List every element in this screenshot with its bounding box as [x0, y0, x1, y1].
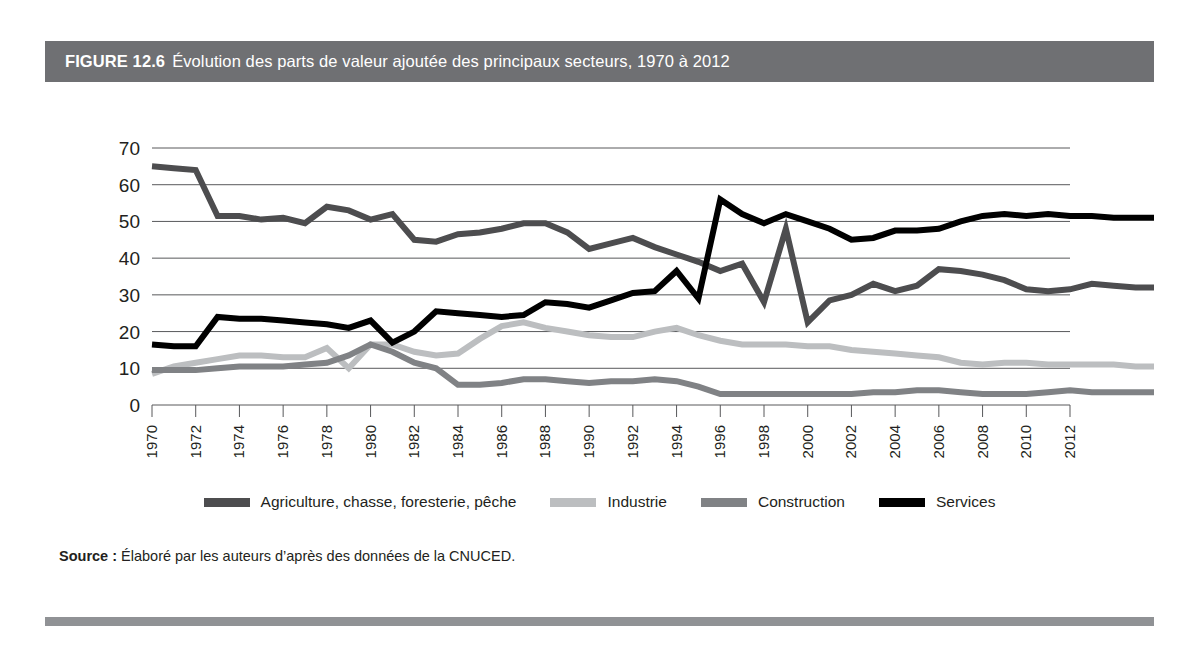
figure-container: FIGURE 12.6Évolution des parts de valeur…	[0, 0, 1195, 654]
y-axis-tick-label: 30	[119, 285, 140, 306]
data-series-lines	[152, 166, 1154, 394]
legend-swatch-construction	[701, 498, 747, 507]
axis-ticks	[152, 405, 1070, 417]
y-axis-tick-label: 60	[119, 175, 140, 196]
chart-legend: Agriculture, chasse, foresterie, pêche I…	[45, 487, 1154, 517]
x-axis-tick-label: 1988	[536, 425, 553, 458]
legend-label-industrie: Industrie	[607, 494, 666, 510]
series-line	[152, 166, 1154, 322]
figure-title-bar: FIGURE 12.6Évolution des parts de valeur…	[45, 41, 1154, 82]
page-title: FIGURE 12.6Évolution des parts de valeur…	[45, 53, 730, 70]
x-axis-tick-label: 1984	[449, 425, 466, 458]
x-axis-tick-label: 1974	[230, 425, 247, 458]
x-axis-tick-label: 1986	[493, 425, 510, 458]
line-chart: 010203040506070 197019721974197619781980…	[45, 82, 1154, 482]
source-note: Source : Élaboré par les auteurs d’après…	[59, 549, 515, 564]
y-axis-tick-label: 10	[119, 358, 140, 379]
x-axis-tick-label: 2002	[842, 425, 859, 458]
legend-swatch-agriculture	[204, 498, 250, 507]
legend-item-agriculture: Agriculture, chasse, foresterie, pêche	[204, 494, 517, 510]
x-axis-tick-label: 1970	[143, 425, 160, 458]
x-axis-tick-label: 1976	[274, 425, 291, 458]
x-axis-tick-label: 2012	[1061, 425, 1078, 458]
legend-item-industrie: Industrie	[550, 494, 666, 510]
x-axis-tick-label: 1978	[318, 425, 335, 458]
x-axis-tick-label: 2006	[930, 425, 947, 458]
x-axis-tick-label: 1992	[624, 425, 641, 458]
figure-title-text: Évolution des parts de valeur ajoutée de…	[165, 52, 730, 70]
x-axis-tick-label: 1982	[405, 425, 422, 458]
x-axis-tick-label: 2010	[1017, 425, 1034, 458]
legend-label-services: Services	[936, 494, 995, 510]
x-axis-tick-label: 1996	[711, 425, 728, 458]
x-axis-tick-label: 1998	[755, 425, 772, 458]
legend-label-construction: Construction	[758, 494, 845, 510]
legend-label-agriculture: Agriculture, chasse, foresterie, pêche	[261, 494, 517, 510]
y-axis-tick-label: 40	[119, 248, 140, 269]
y-axis-tick-label: 50	[119, 211, 140, 232]
bottom-rule-divider	[45, 617, 1154, 626]
x-axis-tick-label: 1980	[362, 425, 379, 458]
x-axis-tick-label: 2008	[974, 425, 991, 458]
series-line	[152, 344, 1154, 394]
y-axis-tick-label: 0	[129, 395, 140, 416]
legend-item-construction: Construction	[701, 494, 845, 510]
y-axis-tick-label: 70	[119, 138, 140, 159]
x-axis-tick-label: 1972	[187, 425, 204, 458]
legend-swatch-services	[879, 498, 925, 507]
legend-item-services: Services	[879, 494, 995, 510]
x-axis-labels: 1970197219741976197819801982198419861988…	[143, 425, 1078, 458]
legend-swatch-industrie	[550, 498, 596, 507]
x-axis-tick-label: 1994	[668, 425, 685, 458]
x-axis-tick-label: 1990	[580, 425, 597, 458]
x-axis-tick-label: 2004	[886, 425, 903, 458]
source-text: Élaboré par les auteurs d’après des donn…	[117, 548, 515, 564]
y-axis-tick-label: 20	[119, 322, 140, 343]
figure-number-label: FIGURE 12.6	[65, 52, 165, 70]
y-axis-labels: 010203040506070	[119, 138, 140, 416]
x-axis-tick-label: 2000	[799, 425, 816, 458]
source-label: Source :	[59, 548, 117, 564]
